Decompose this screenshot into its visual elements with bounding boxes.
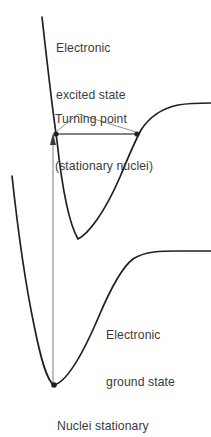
excited-state-label-line1: Electronic — [56, 41, 126, 57]
turning-point-label-line1: Turning point — [55, 112, 153, 128]
nuclei-stationary-dot — [51, 382, 57, 388]
turning-point-label: Turning point (stationary nuclei) — [55, 81, 153, 205]
turning-point-label-line2: (stationary nuclei) — [55, 159, 153, 175]
ground-state-label-line1: Electronic — [106, 328, 175, 344]
nuclei-stationary-label-line1: Nuclei stationary — [57, 419, 149, 435]
nuclei-stationary-label: Nuclei stationary — [57, 388, 149, 437]
